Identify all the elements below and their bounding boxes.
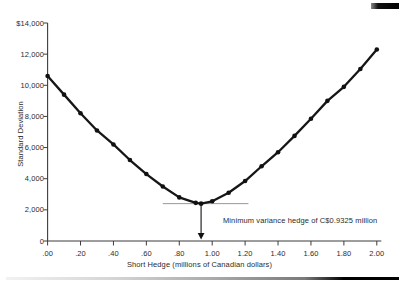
y-tick-label: 8,000	[0, 112, 44, 121]
data-point-marker	[193, 201, 198, 206]
y-tick-label: 4,000	[0, 174, 44, 183]
x-tick-label: 1.60	[295, 249, 327, 258]
y-tick-label: 12,000	[0, 50, 44, 59]
x-tick-label: 1.00	[196, 249, 228, 258]
data-point-marker	[210, 199, 215, 204]
data-point-marker	[226, 190, 231, 195]
data-point-marker	[358, 67, 363, 72]
data-point-marker	[276, 150, 281, 155]
x-tick-label: .40	[97, 249, 129, 258]
data-point-marker	[199, 201, 204, 206]
data-point-marker	[45, 74, 50, 79]
x-tick-label: .60	[130, 249, 162, 258]
y-tick-label: 2,000	[0, 205, 44, 214]
data-point-marker	[62, 92, 67, 97]
data-point-marker	[78, 111, 83, 116]
minimum-variance-hedge-figure: Standard Deviation $14,00012,00010,0008,…	[0, 0, 399, 282]
y-tick-label: 0	[0, 237, 44, 246]
y-tick-label: $14,000	[0, 19, 44, 28]
data-point-marker	[342, 85, 347, 90]
data-point-marker	[292, 134, 297, 139]
std-dev-curve	[48, 49, 377, 203]
hedge-standard-deviation-chart	[0, 0, 399, 282]
x-tick-label: 1.20	[229, 249, 261, 258]
x-tick-label: .00	[32, 249, 64, 258]
data-point-marker	[309, 116, 314, 121]
y-tick-label: 10,000	[0, 81, 44, 90]
x-tick-label: 1.40	[262, 249, 294, 258]
data-point-marker	[95, 128, 100, 133]
x-tick-label: 2.00	[361, 249, 393, 258]
data-point-marker	[243, 179, 248, 184]
data-point-marker	[325, 99, 330, 104]
y-tick-label: 6,000	[0, 143, 44, 152]
x-tick-label: 1.80	[328, 249, 360, 258]
data-point-marker	[161, 184, 166, 189]
data-point-marker	[111, 142, 116, 147]
data-point-marker	[259, 164, 264, 169]
bottom-rule	[6, 277, 399, 280]
minimum-variance-annotation: Minimum variance hedge of C$0.9325 milli…	[223, 216, 377, 225]
annotation-arrow-head	[198, 233, 205, 240]
x-tick-label: .80	[163, 249, 195, 258]
data-point-marker	[177, 195, 182, 200]
data-point-marker	[144, 172, 149, 177]
x-axis-title: Short Hedge (millions of Canadian dollar…	[0, 260, 399, 269]
data-point-marker	[375, 47, 380, 52]
data-point-marker	[128, 158, 133, 163]
x-tick-label: .20	[65, 249, 97, 258]
